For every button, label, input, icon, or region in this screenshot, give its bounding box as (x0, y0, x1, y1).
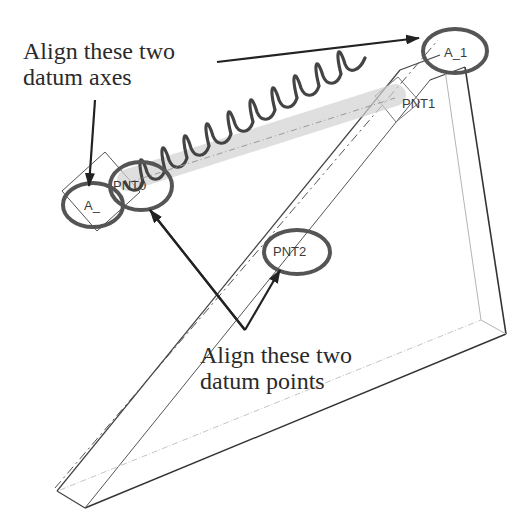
arrow-to-axis-a0 (89, 100, 95, 186)
arrow-to-axis-a1 (217, 38, 419, 62)
callout-align-axes: Align these two datum axes (23, 38, 175, 90)
callout-align-points: Align these two datum points (200, 342, 352, 394)
label-axis-a1: A_1 (444, 45, 467, 60)
label-pnt2: PNT2 (273, 244, 306, 259)
arrow-to-pnt0 (150, 210, 245, 330)
label-axis-a0: A_ (84, 198, 101, 213)
callout-axes-line2: datum axes (23, 64, 175, 90)
callout-axes-line1: Align these two (23, 38, 175, 64)
frame-body (55, 40, 506, 508)
callout-points-line1: Align these two (200, 342, 352, 368)
label-pnt1: PNT1 (402, 96, 435, 111)
arrow-to-pnt2 (245, 270, 280, 330)
diagram-canvas: A_ PNT0 A_1 PNT1 PNT2 Align these two da… (0, 0, 529, 532)
callout-points-line2: datum points (200, 368, 352, 394)
